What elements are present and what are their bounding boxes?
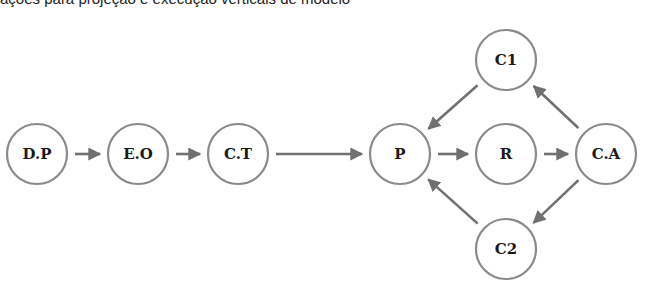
node-ca: C.A bbox=[576, 124, 636, 184]
node-label: P bbox=[394, 145, 405, 163]
node-label: C.T bbox=[224, 145, 253, 163]
node-label: E.O bbox=[123, 145, 153, 163]
arrow-ca-to-c1 bbox=[534, 86, 579, 128]
node-label: D.P bbox=[23, 145, 52, 163]
node-c1: C1 bbox=[476, 30, 536, 90]
node-p: P bbox=[370, 124, 430, 184]
node-label: C2 bbox=[495, 240, 517, 258]
node-r: R bbox=[476, 124, 536, 184]
node-eo: E.O bbox=[108, 124, 168, 184]
arrow-c2-to-p bbox=[428, 179, 477, 223]
flow-diagram: D.PE.OC.TPRC.AC1C2 bbox=[0, 0, 650, 289]
node-label: C.A bbox=[592, 145, 621, 163]
node-dp: D.P bbox=[7, 124, 67, 184]
node-ct: C.T bbox=[208, 124, 268, 184]
node-label: R bbox=[500, 145, 513, 163]
arrow-ca-to-c2 bbox=[534, 180, 579, 223]
node-label: C1 bbox=[495, 51, 517, 69]
node-c2: C2 bbox=[476, 219, 536, 279]
arrow-c1-to-p bbox=[428, 85, 477, 129]
